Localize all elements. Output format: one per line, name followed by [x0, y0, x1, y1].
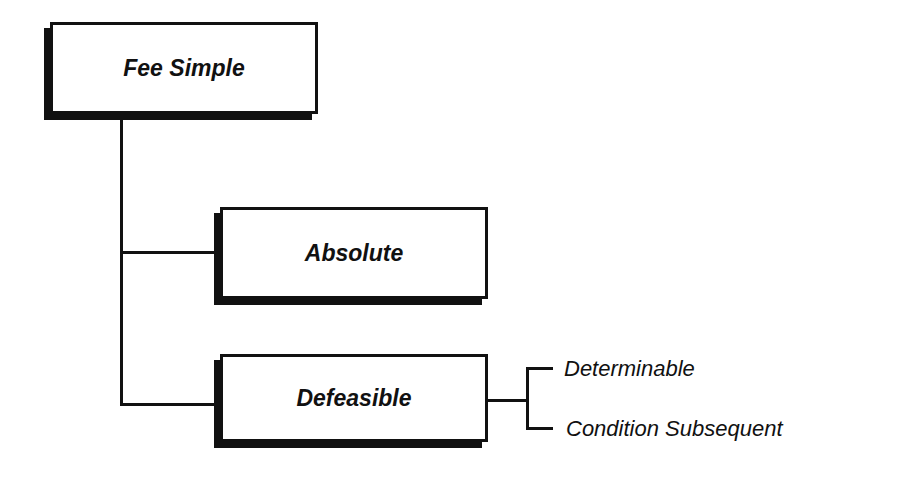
absolute-label: Absolute	[305, 240, 403, 267]
defeasible-box: Defeasible	[220, 354, 488, 442]
branch-defeasible-line	[120, 403, 216, 406]
bracket-bottom-tick	[526, 427, 553, 430]
defeasible-label: Defeasible	[296, 385, 411, 412]
absolute-box: Absolute	[220, 207, 488, 299]
fee-simple-label: Fee Simple	[123, 55, 244, 82]
bracket-top-tick	[526, 367, 553, 370]
fee-simple-box: Fee Simple	[50, 22, 318, 114]
determinable-label: Determinable	[564, 356, 695, 382]
trunk-line	[120, 118, 123, 406]
branch-absolute-line	[120, 251, 216, 254]
condition-subsequent-label: Condition Subsequent	[566, 416, 783, 442]
bracket-vertical-line	[526, 367, 529, 430]
bracket-stem-line	[488, 399, 528, 402]
